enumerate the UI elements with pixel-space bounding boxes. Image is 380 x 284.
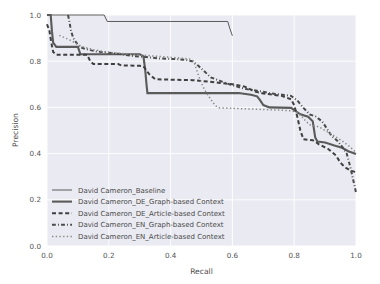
x-tick-label: 0.0: [41, 251, 53, 260]
y-tick-label: 1.0: [30, 11, 42, 20]
chart-canvas: 0.00.20.40.60.81.0 0.00.20.40.60.81.0 Re…: [0, 0, 380, 284]
legend-label: David Cameron_EN_Article-based Context: [78, 233, 225, 241]
y-tick-label: 0.8: [30, 57, 42, 66]
x-tick-label: 0.4: [165, 251, 177, 260]
legend-label: David Cameron_EN_Graph-based Context: [78, 221, 224, 229]
y-tick-label: 0.4: [30, 149, 42, 158]
x-tick-label: 0.6: [227, 251, 239, 260]
y-tick-label: 0.0: [30, 242, 42, 251]
legend-label: David Cameron_DE_Article-based Context: [78, 210, 225, 218]
y-axis-title: Precision: [11, 113, 20, 147]
x-tick-label: 1.0: [350, 251, 362, 260]
y-tick-label: 0.2: [30, 195, 41, 204]
legend-label: David Cameron_DE_Graph-based Context: [78, 198, 224, 206]
x-tick-label: 0.2: [103, 251, 114, 260]
legend-label: David Cameron_Baseline: [78, 187, 165, 195]
y-tick-label: 0.6: [30, 103, 42, 112]
precision-recall-chart-figure: 0.00.20.40.60.81.0 0.00.20.40.60.81.0 Re…: [0, 0, 380, 284]
x-axis-title: Recall: [190, 267, 213, 276]
x-tick-label: 0.8: [288, 251, 300, 260]
